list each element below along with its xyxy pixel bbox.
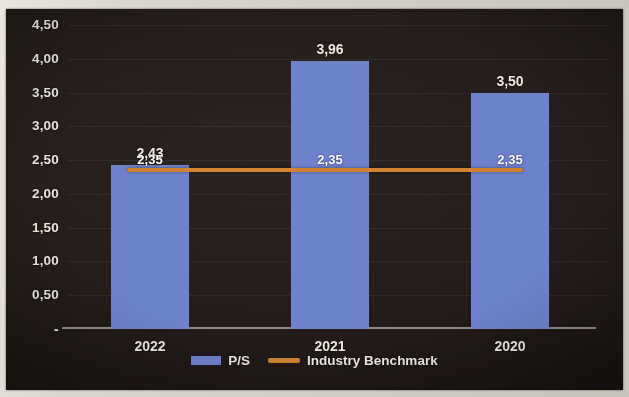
plot-area: 4,504,003,503,002,502,001,501,000,50-2,4… xyxy=(68,25,608,329)
legend-line-swatch-icon xyxy=(268,358,300,363)
legend-item-industry-benchmark[interactable]: Industry Benchmark xyxy=(268,353,438,368)
chart-legend: P/SIndustry Benchmark xyxy=(6,353,623,368)
y-axis-tick-label: 3,50 xyxy=(32,85,59,100)
legend-bar-swatch-icon xyxy=(191,356,221,365)
y-axis-tick-label: 2,50 xyxy=(32,152,59,167)
chart-screenshot: 4,504,003,503,002,502,001,501,000,50-2,4… xyxy=(0,0,629,397)
y-gridline xyxy=(68,59,608,60)
chart-slide: 4,504,003,503,002,502,001,501,000,50-2,4… xyxy=(6,9,623,390)
x-axis-tick-label-2021: 2021 xyxy=(314,338,345,354)
benchmark-value-label-2021: 2,35 xyxy=(317,152,342,167)
y-axis-tick-label: 2,00 xyxy=(32,186,59,201)
y-gridline xyxy=(68,25,608,26)
x-axis-tick-label-2020: 2020 xyxy=(494,338,525,354)
bar-value-label-2021: 3,96 xyxy=(316,41,343,57)
y-axis-tick-label: 1,00 xyxy=(32,254,59,269)
legend-label: Industry Benchmark xyxy=(307,353,438,368)
bar-value-label-2020: 3,50 xyxy=(496,73,523,89)
y-axis-tick-label: 0,50 xyxy=(32,287,59,302)
bar-2020 xyxy=(471,93,549,329)
industry-benchmark-line xyxy=(127,168,523,172)
y-axis-tick-label: - xyxy=(54,320,59,337)
y-axis-tick-label: 1,50 xyxy=(32,220,59,235)
legend-label: P/S xyxy=(228,353,250,368)
benchmark-value-label-2022: 2,35 xyxy=(137,152,162,167)
bar-2021 xyxy=(291,61,369,329)
y-axis-tick-label: 4,00 xyxy=(32,51,59,66)
x-axis-tick-label-2022: 2022 xyxy=(134,338,165,354)
legend-item-ps[interactable]: P/S xyxy=(191,353,250,368)
y-axis-tick-label: 4,50 xyxy=(32,17,59,32)
bar-2022 xyxy=(111,165,189,329)
benchmark-value-label-2020: 2,35 xyxy=(497,152,522,167)
y-axis-tick-label: 3,00 xyxy=(32,119,59,134)
